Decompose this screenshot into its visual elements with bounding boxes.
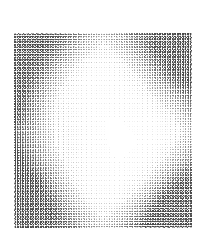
figure-canvas: Dense vector field (quiver) plot. Arrow …	[0, 0, 204, 235]
quiver-plot-area	[14, 33, 192, 228]
quiver-field	[14, 33, 192, 228]
